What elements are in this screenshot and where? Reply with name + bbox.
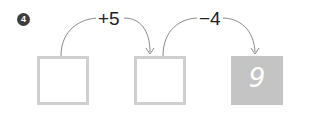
arc-minus-4 bbox=[163, 18, 199, 56]
arc-plus-5 bbox=[61, 18, 100, 56]
arc-plus-5-tail bbox=[124, 18, 150, 52]
operation-label-2: −4 bbox=[197, 9, 223, 29]
box-value: 9 bbox=[234, 63, 280, 93]
answer-box-1[interactable] bbox=[37, 56, 89, 105]
operation-label-1: +5 bbox=[96, 9, 122, 29]
given-value-box: 9 bbox=[231, 56, 283, 105]
arc-minus-4-tail bbox=[222, 18, 255, 52]
answer-box-2[interactable] bbox=[134, 56, 186, 105]
